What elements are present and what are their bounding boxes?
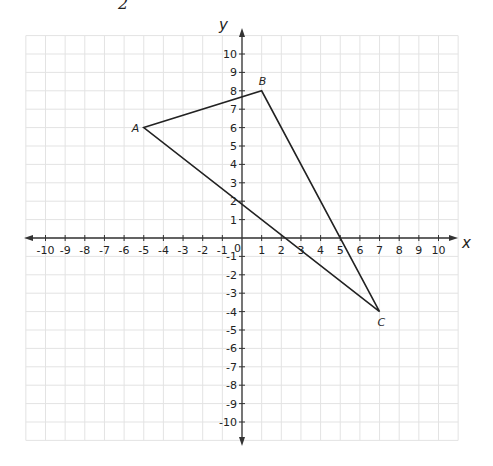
x-tick-label: 2 [278, 244, 285, 257]
y-tick-label: -2 [226, 269, 237, 282]
coordinate-plane: 2 -10-9-8-7-6-5-4-3-2-112345678910 10987… [0, 0, 493, 466]
y-arrow-up-icon [239, 28, 245, 37]
y-tick-label: -10 [219, 416, 237, 429]
x-tick-label: -10 [37, 244, 55, 257]
x-tick-label: 4 [317, 244, 324, 257]
x-tick-label: -9 [60, 244, 71, 257]
vertex-label-a: A [131, 122, 140, 135]
x-tick-label: -7 [99, 244, 110, 257]
x-tick-label: 1 [258, 244, 265, 257]
vertex-label-c: C [378, 316, 386, 329]
y-tick-label: 5 [230, 140, 237, 153]
x-tick-labels: -10-9-8-7-6-5-4-3-2-112345678910 [37, 244, 446, 257]
y-arrow-down-icon [239, 437, 245, 446]
x-tick-label: -5 [138, 244, 149, 257]
x-tick-label: -3 [178, 244, 189, 257]
x-axis-label: x [461, 234, 471, 252]
y-tick-label: -7 [226, 361, 237, 374]
y-tick-label: 4 [230, 158, 237, 171]
x-tick-label: -6 [119, 244, 130, 257]
y-tick-label: 7 [230, 103, 237, 116]
x-tick-label: 9 [415, 244, 422, 257]
header-fragment: 2 [117, 0, 128, 13]
x-tick-label: 5 [337, 244, 344, 257]
x-tick-label: 8 [396, 244, 403, 257]
x-tick-label: -8 [79, 244, 90, 257]
x-tick-label: -4 [158, 244, 169, 257]
x-tick-label: 6 [356, 244, 363, 257]
origin-label: 0 [234, 242, 241, 255]
vertex-label-b: B [259, 75, 267, 88]
y-tick-label: -4 [226, 306, 237, 319]
x-tick-label: 10 [432, 244, 446, 257]
y-tick-label: -9 [226, 398, 237, 411]
y-tick-label: 3 [230, 177, 237, 190]
y-tick-label: 9 [230, 66, 237, 79]
x-arrow-right-icon [449, 235, 458, 241]
y-tick-label: 6 [230, 122, 237, 135]
y-tick-label: -3 [226, 287, 237, 300]
y-tick-label: -5 [226, 324, 237, 337]
y-tick-label: -8 [226, 379, 237, 392]
y-tick-label: 10 [223, 48, 237, 61]
x-tick-label: -2 [197, 244, 208, 257]
x-tick-label: 7 [376, 244, 383, 257]
vertex-labels: ABC [131, 75, 386, 329]
y-tick-label: -6 [226, 342, 237, 355]
y-tick-label: 8 [230, 85, 237, 98]
y-axis-label: y [218, 16, 229, 34]
y-tick-label: 1 [230, 214, 237, 227]
